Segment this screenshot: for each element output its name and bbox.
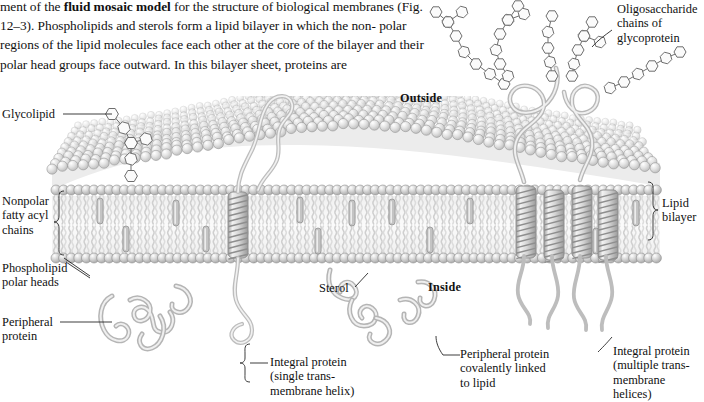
brace-nonpolar-chains: [54, 191, 64, 255]
label-integral-protein-multiple: Integral protein (multiple trans- membra…: [613, 344, 704, 402]
label-oligosaccharide-chains: Oligosaccharide chains of glycoprotein: [617, 2, 698, 45]
label-integral-protein-single: Integral protein (single trans- membrane…: [270, 355, 354, 398]
label-inside: Inside: [428, 280, 461, 294]
leader-integral-multiple: [598, 337, 612, 352]
label-sterol: Sterol: [319, 281, 349, 295]
label-peripheral-protein: Peripheral protein: [2, 315, 53, 344]
leader-polar-heads-lower: [66, 262, 90, 278]
leader-sterol: [355, 273, 368, 287]
label-glycolipid: Glycolipid: [2, 107, 55, 121]
brace-lipid-bilayer: [648, 182, 658, 240]
label-lipid-bilayer: Lipid bilayer: [662, 196, 696, 225]
leader-polar-heads-upper: [64, 258, 90, 276]
label-phospholipid-polar-heads: Phospholipid polar heads: [2, 261, 67, 290]
leader-oligosaccharide: [592, 30, 612, 47]
label-outside: Outside: [400, 91, 442, 105]
label-nonpolar-fatty-acyl-chains: Nonpolar fatty acyl chains: [2, 194, 49, 237]
label-peripheral-protein-linked: Peripheral protein covalently linked to …: [460, 347, 549, 390]
brace-integral-single: [240, 344, 250, 382]
leader-peripheral-linked-stem: [436, 336, 443, 355]
